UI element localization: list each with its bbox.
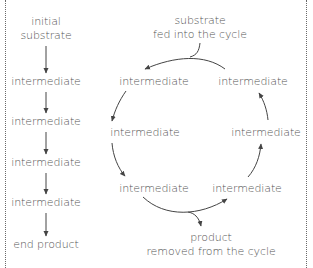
cycle-arrow-lower-left-icon — [112, 143, 125, 176]
output-arrow-icon — [188, 212, 201, 226]
input-feed-arrow-icon — [190, 43, 200, 57]
cycle-arrow-top-icon — [145, 58, 225, 69]
cycle-arrow-lower-right-icon — [248, 144, 261, 177]
arrow-layer — [0, 0, 313, 268]
cycle-arrow-bottom-icon — [143, 197, 227, 212]
cycle-arrow-upper-right-icon — [259, 93, 268, 120]
cycle-arrow-upper-left-icon — [112, 91, 126, 121]
